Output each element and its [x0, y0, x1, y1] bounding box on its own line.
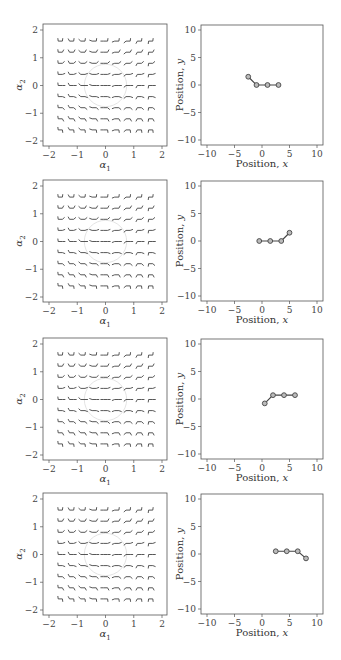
y-tick-label: −10 [177, 449, 196, 459]
y-axis-label: Position, y [174, 58, 185, 111]
x-tick-label: 1 [131, 150, 137, 160]
y-tick-label: −2 [25, 136, 38, 146]
joint-marker [276, 83, 281, 88]
y-tick-label: −10 [177, 604, 196, 614]
joint-marker [246, 74, 251, 79]
y-axis-label: Position, y [174, 372, 185, 425]
x-axis-label: α1 [99, 315, 110, 329]
x-axis-label: α1 [99, 628, 110, 642]
joint-marker [271, 393, 276, 398]
joint-marker [265, 83, 270, 88]
y-tick-label: −10 [177, 291, 196, 301]
x-tick-label: −2 [42, 619, 55, 629]
joint-marker [304, 556, 309, 561]
x-tick-label: −2 [42, 306, 55, 316]
y-tick-label: 0 [32, 81, 38, 91]
y-tick-label: 0 [190, 549, 196, 559]
y-tick-label: 0 [190, 80, 196, 90]
position-plot: −10−505101050−5−10Position, xPosition, y [174, 494, 323, 638]
x-tick-label: −1 [71, 619, 84, 629]
row-4: −2−1012210−1−2α1α2−10−505101050−5−10Posi… [13, 493, 323, 642]
joint-marker [254, 83, 259, 88]
y-tick-label: 10 [185, 25, 197, 35]
joint-marker [268, 239, 273, 244]
x-tick-label: 1 [131, 464, 137, 474]
position-plot: −10−505101050−5−10Position, xPosition, y [174, 25, 323, 169]
y-tick-label: −2 [25, 605, 38, 615]
x-axis-label: α1 [99, 159, 110, 173]
x-tick-label: −2 [42, 150, 55, 160]
y-tick-label: 5 [190, 367, 196, 377]
y-tick-label: 0 [190, 394, 196, 404]
y-axis-label: α2 [13, 79, 27, 90]
row-2: −2−1012210−1−2α1α2−10−505101050−5−10Posi… [13, 180, 323, 329]
x-tick-label: 10 [311, 463, 323, 473]
y-tick-label: −2 [25, 450, 38, 460]
y-tick-label: 0 [32, 237, 38, 247]
y-tick-label: 10 [185, 494, 197, 504]
y-tick-label: −1 [25, 108, 38, 118]
joint-marker [257, 239, 262, 244]
x-axis-label: Position, x [236, 627, 289, 638]
y-tick-label: 10 [185, 181, 197, 191]
joint-marker [262, 401, 267, 406]
y-tick-label: 1 [32, 367, 38, 377]
joint-marker [279, 239, 284, 244]
y-axis-label: α2 [13, 548, 27, 559]
row-3: −2−1012210−1−2α1α2−10−505101050−5−10Posi… [13, 338, 323, 487]
x-axis-label: α1 [99, 473, 110, 487]
x-tick-label: −10 [198, 618, 217, 628]
y-axis-label: α2 [13, 235, 27, 246]
y-tick-label: −10 [177, 135, 196, 145]
y-tick-label: 5 [190, 209, 196, 219]
plot-frame [201, 494, 323, 614]
joint-marker [287, 230, 292, 235]
y-axis-label: α2 [13, 393, 27, 404]
x-axis-label: Position, x [236, 314, 289, 325]
x-tick-label: 1 [131, 306, 137, 316]
x-tick-label: 10 [311, 305, 323, 315]
joint-marker [295, 549, 300, 554]
y-tick-label: 0 [32, 395, 38, 405]
figure-canvas: −2−1012210−1−2α1α2−10−505101050−5−10Posi… [0, 0, 341, 660]
y-tick-label: −1 [25, 422, 38, 432]
x-tick-label: −10 [198, 149, 217, 159]
y-tick-label: −2 [25, 292, 38, 302]
x-tick-label: −2 [42, 464, 55, 474]
y-tick-label: 0 [32, 550, 38, 560]
y-tick-label: 5 [190, 53, 196, 63]
x-axis-label: Position, x [236, 472, 289, 483]
y-tick-label: 1 [32, 522, 38, 532]
x-tick-label: 2 [159, 306, 165, 316]
y-tick-label: 2 [32, 339, 38, 349]
x-tick-label: 2 [159, 150, 165, 160]
x-tick-label: 2 [159, 619, 165, 629]
row-1: −2−1012210−1−2α1α2−10−505101050−5−10Posi… [13, 24, 323, 173]
x-tick-label: 10 [311, 618, 323, 628]
plot-frame [201, 339, 323, 459]
y-tick-label: −1 [25, 577, 38, 587]
y-tick-label: 2 [32, 494, 38, 504]
y-tick-label: 10 [185, 339, 197, 349]
x-axis-label: Position, x [236, 158, 289, 169]
joint-marker [293, 393, 298, 398]
shape-space-plot: −2−1012210−1−2α1α2 [13, 24, 167, 173]
position-plot: −10−505101050−5−10Position, xPosition, y [174, 339, 323, 483]
x-tick-label: −1 [71, 150, 84, 160]
y-tick-label: 1 [32, 53, 38, 63]
y-tick-label: 5 [190, 522, 196, 532]
y-tick-label: 0 [190, 236, 196, 246]
x-tick-label: −10 [198, 463, 217, 473]
y-axis-label: Position, y [174, 214, 185, 267]
shape-space-plot: −2−1012210−1−2α1α2 [13, 493, 167, 642]
x-tick-label: −1 [71, 464, 84, 474]
y-tick-label: 2 [32, 181, 38, 191]
x-tick-label: 2 [159, 464, 165, 474]
x-tick-label: 10 [311, 149, 323, 159]
y-axis-label: Position, y [174, 527, 185, 580]
x-tick-label: −1 [71, 306, 84, 316]
x-tick-label: 1 [131, 619, 137, 629]
y-tick-label: 1 [32, 209, 38, 219]
joint-marker [282, 393, 287, 398]
shape-space-plot: −2−1012210−1−2α1α2 [13, 180, 167, 329]
